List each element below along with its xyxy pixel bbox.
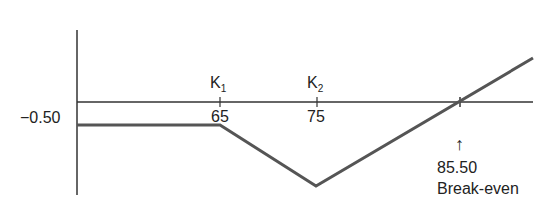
payoff-diagram [0, 0, 541, 208]
k2-letter: K [307, 74, 318, 91]
k2-subscript: 2 [318, 83, 324, 94]
k1-label: K1 [210, 75, 226, 91]
k1-subscript: 1 [221, 83, 227, 94]
y-value-label: −0.50 [20, 110, 60, 126]
breakeven-text-label: Break-even [437, 181, 519, 197]
breakeven-value-label: 85.50 [437, 160, 477, 176]
breakeven-arrow-icon: ↑ [455, 135, 464, 153]
k2-label: K2 [307, 75, 323, 91]
k2-value-label: 75 [307, 109, 325, 125]
k1-letter: K [210, 74, 221, 91]
k1-value-label: 65 [211, 109, 229, 125]
